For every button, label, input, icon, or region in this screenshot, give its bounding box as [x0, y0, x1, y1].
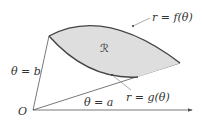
polar-region-diagram: ℛ r = f(θ) r = g(θ) θ = b θ = a O: [0, 0, 202, 127]
leader-f: [133, 18, 150, 26]
region-shaded: [49, 26, 180, 78]
origin-label: O: [18, 105, 27, 118]
leader-f-dot: [132, 25, 134, 27]
inner-curve-label: r = g(θ): [126, 91, 170, 104]
leader-g-dot: [111, 74, 113, 76]
ray-a-label: θ = a: [84, 96, 113, 109]
region-label: ℛ: [100, 42, 109, 55]
ray-b-label: θ = b: [11, 65, 41, 78]
outer-curve-label: r = f(θ): [152, 11, 193, 24]
